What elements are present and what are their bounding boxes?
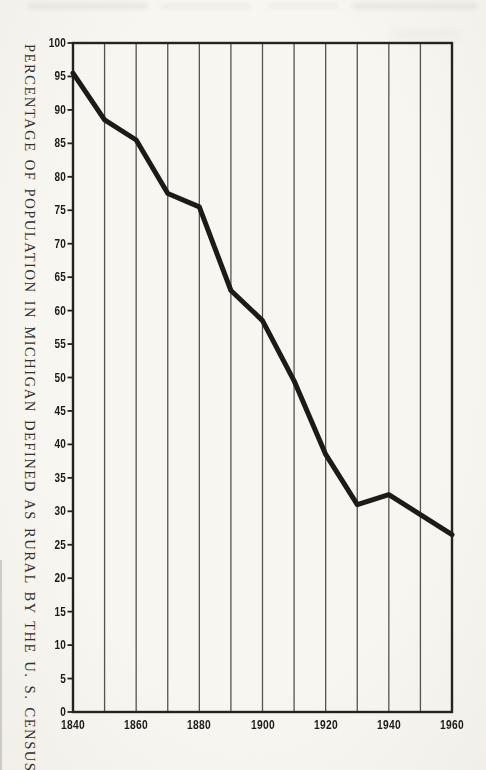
x-tick-label-1880: 1880: [180, 717, 219, 733]
y-tick-label-40: 40: [40, 436, 66, 452]
scan-edge-artifact: [0, 560, 2, 770]
y-tick-label-20: 20: [40, 570, 66, 586]
y-tick-label-35: 35: [40, 470, 66, 486]
x-tick-label-1840: 1840: [53, 717, 92, 733]
y-tick-label-60: 60: [40, 303, 66, 319]
y-tick-label-80: 80: [40, 169, 66, 185]
y-tick-label-55: 55: [40, 336, 66, 352]
y-tick-label-25: 25: [40, 537, 66, 553]
y-tick-label-85: 85: [40, 135, 66, 151]
x-tick-label-1860: 1860: [116, 717, 155, 733]
y-tick-label-95: 95: [40, 68, 66, 84]
x-tick-label-1900: 1900: [243, 717, 282, 733]
y-tick-label-70: 70: [40, 236, 66, 252]
y-tick-label-50: 50: [40, 370, 66, 386]
x-tick-label-1960: 1960: [432, 717, 471, 733]
y-tick-label-45: 45: [40, 403, 66, 419]
y-tick-label-5: 5: [40, 671, 66, 687]
y-tick-label-90: 90: [40, 102, 66, 118]
book-page-scan: PERCENTAGE OF POPULATION IN MICHIGAN DEF…: [0, 0, 486, 770]
y-tick-label-100: 100: [40, 35, 66, 51]
plot-area: [0, 0, 486, 770]
y-tick-label-65: 65: [40, 269, 66, 285]
x-tick-label-1940: 1940: [369, 717, 408, 733]
x-tick-label-1920: 1920: [306, 717, 345, 733]
y-tick-label-15: 15: [40, 604, 66, 620]
y-tick-label-75: 75: [40, 202, 66, 218]
y-tick-label-30: 30: [40, 503, 66, 519]
y-tick-label-10: 10: [40, 637, 66, 653]
